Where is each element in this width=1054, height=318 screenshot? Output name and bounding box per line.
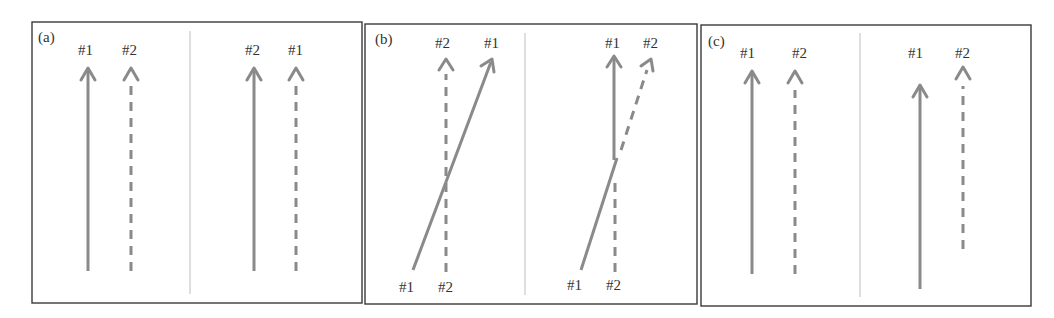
dashed-arrow-2 xyxy=(788,71,802,274)
solid-arrow-1-shifted xyxy=(913,85,927,289)
arrowhead-icon xyxy=(124,68,138,80)
solid-arrow-1 xyxy=(81,68,95,271)
dashed-arrow-2 xyxy=(124,68,138,271)
dashed-arrow-2-bent xyxy=(615,59,653,272)
arrow-label: #2 xyxy=(606,277,621,293)
solid-arrow-2 xyxy=(247,68,261,271)
arrowhead-icon xyxy=(956,67,970,79)
arrow-label: #1 xyxy=(288,42,303,58)
arrow-label: #2 xyxy=(435,35,450,51)
diagram: (a) #1 #2 #2 #1 (b) #2 #1 #1 # xyxy=(0,0,1054,318)
panel-c: (c) #1 #2 #1 #2 xyxy=(701,25,1031,306)
arrow-label: #1 xyxy=(605,35,620,51)
solid-arrow-1 xyxy=(745,71,759,274)
arrowhead-icon xyxy=(641,59,653,71)
arrow-label: #2 xyxy=(245,42,260,58)
panel-c-label: (c) xyxy=(708,33,725,50)
slanted-solid-arrow-1 xyxy=(413,59,494,270)
arrow-label: #2 xyxy=(955,45,970,61)
panel-a: (a) #1 #2 #2 #1 xyxy=(32,22,362,303)
arrow-label: #1 xyxy=(908,45,923,61)
panel-a-label: (a) xyxy=(38,29,55,46)
arrow-label: #2 xyxy=(643,35,658,51)
arrow-label: #1 xyxy=(484,35,499,51)
panel-b: (b) #2 #1 #1 #2 #1 #2 #1 #2 xyxy=(365,24,697,304)
panel-b-label: (b) xyxy=(375,31,393,48)
arrow-label: #1 xyxy=(399,279,414,295)
dashed-arrow-1 xyxy=(289,68,303,271)
arrow-label: #1 xyxy=(567,277,582,293)
dashed-arrow-2-shifted xyxy=(956,67,970,249)
arrow-label: #2 xyxy=(438,279,453,295)
arrow-label: #2 xyxy=(792,45,807,61)
arrowhead-icon xyxy=(788,71,802,83)
arrowhead-icon xyxy=(439,59,453,70)
panel-a-frame xyxy=(32,22,362,303)
arrow-label: #1 xyxy=(78,42,93,58)
arrowhead-icon xyxy=(289,68,303,80)
arrow-label: #2 xyxy=(122,42,137,58)
arrow-label: #1 xyxy=(740,45,755,61)
